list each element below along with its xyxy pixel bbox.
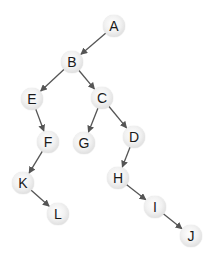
node-label: H <box>113 171 123 185</box>
node-e: E <box>21 88 43 110</box>
node-label: A <box>109 19 118 33</box>
node-label: E <box>27 92 36 106</box>
node-b: B <box>61 51 83 73</box>
node-label: J <box>188 229 195 243</box>
node-label: L <box>54 207 62 221</box>
node-label: K <box>18 176 27 190</box>
edge-e-f <box>36 109 44 131</box>
edge-b-e <box>41 70 64 91</box>
node-f: F <box>37 131 59 153</box>
node-label: G <box>79 136 90 150</box>
node-l: L <box>47 203 69 225</box>
node-g: G <box>73 132 95 154</box>
tree-diagram: A B E C F G D K H L I J <box>0 0 217 256</box>
edge-k-l <box>31 190 49 206</box>
node-label: F <box>44 135 53 149</box>
node-label: D <box>129 130 139 144</box>
edge-h-i <box>127 185 146 200</box>
edges-layer <box>0 0 217 256</box>
node-label: B <box>67 55 76 69</box>
node-label: I <box>153 200 157 214</box>
node-c: C <box>91 87 113 109</box>
edge-a-b <box>81 33 106 54</box>
node-a: A <box>103 15 125 37</box>
node-h: H <box>107 167 129 189</box>
edge-b-c <box>79 71 94 89</box>
node-label: C <box>97 91 107 105</box>
edge-c-g <box>89 108 98 132</box>
edge-c-d <box>109 107 126 128</box>
node-j: J <box>180 225 202 247</box>
edge-f-k <box>29 151 42 172</box>
node-i: I <box>144 196 166 218</box>
edge-i-j <box>164 214 182 229</box>
node-k: K <box>12 172 34 194</box>
edge-d-h <box>122 147 130 167</box>
node-d: D <box>123 126 145 148</box>
